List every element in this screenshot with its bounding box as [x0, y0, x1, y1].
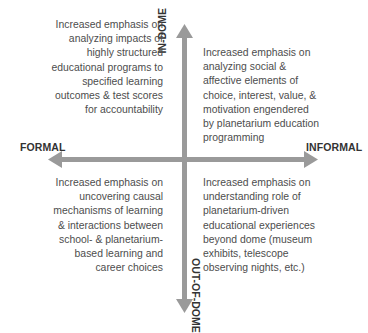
quadrant-text-line: school- & planetarium-: [0, 233, 163, 247]
quadrant-bottom-left: Increased emphasis on uncovering causal …: [0, 176, 163, 275]
quadrant-text-line: specified learning: [0, 75, 163, 89]
quadrant-text-line: Increased emphasis on: [0, 18, 163, 32]
quadrant-text-line: planetarium-driven: [203, 204, 315, 218]
quadrant-text-line: educational programs to: [0, 61, 163, 75]
quadrant-text-line: Increased emphasis on: [203, 176, 315, 190]
vertical-axis-shaft: [182, 36, 187, 302]
quadrant-text-line: choice, interest, value, &: [203, 89, 319, 103]
quadrant-text-line: based learning and: [0, 247, 163, 261]
quadrant-text-line: affective elements of: [203, 74, 319, 88]
arrow-up-icon: [176, 24, 193, 38]
quadrant-text-line: motivation engendered: [203, 103, 319, 117]
quadrant-text-line: Increased emphasis on: [0, 176, 163, 190]
quadrant-top-right: Increased emphasis on analyzing social &…: [203, 46, 319, 145]
quadrant-top-left: Increased emphasis on analyzing impacts …: [0, 18, 163, 117]
quadrant-text-line: observing nights, etc.): [203, 261, 315, 275]
axis-label-out-of-dome: OUT-OF-DOME: [190, 258, 202, 333]
quadrant-text-line: analyzing impacts of: [0, 32, 163, 46]
quadrant-text-line: highly structured: [0, 46, 163, 60]
quadrant-text-line: for accountability: [0, 103, 163, 117]
arrow-left-icon: [48, 151, 62, 168]
quadrant-text-line: & interactions between: [0, 219, 163, 233]
quadrant-text-line: beyond dome (museum: [203, 233, 315, 247]
quadrant-text-line: mechanisms of learning: [0, 204, 163, 218]
arrow-right-icon: [304, 151, 318, 168]
quadrant-text-line: outcomes & test scores: [0, 89, 163, 103]
quadrant-text-line: analyzing social &: [203, 60, 319, 74]
quadrant-text-line: exhibits, telescope: [203, 247, 315, 261]
quadrant-text-line: understanding role of: [203, 190, 315, 204]
quadrant-text-line: Increased emphasis on: [203, 46, 319, 60]
axis-label-formal: FORMAL: [20, 141, 66, 153]
quadrant-text-line: career choices: [0, 261, 163, 275]
quadrant-bottom-right: Increased emphasis on understanding role…: [203, 176, 315, 275]
quadrant-text-line: by planetarium education: [203, 117, 319, 131]
quadrant-text-line: educational experiences: [203, 219, 315, 233]
quadrant-text-line: uncovering causal: [0, 190, 163, 204]
quadrant-text-line: programming: [203, 131, 319, 145]
